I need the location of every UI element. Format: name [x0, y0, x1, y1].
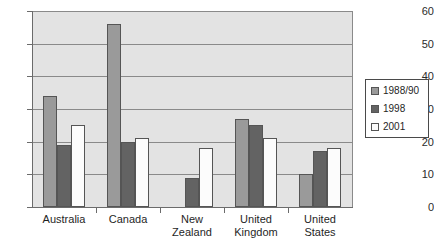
bar	[199, 148, 213, 207]
y-tick-label: 50	[408, 39, 434, 49]
bar	[107, 24, 121, 207]
bar-chart: 0102030405060 AustraliaCanadaNewZealandU…	[0, 0, 434, 252]
bar	[57, 145, 71, 207]
bar	[135, 138, 149, 207]
bar	[235, 119, 249, 207]
x-axis-label: Canada	[96, 213, 160, 226]
bar	[263, 138, 277, 207]
legend-swatch-icon	[371, 105, 379, 113]
bar	[249, 125, 263, 207]
bar	[313, 151, 327, 207]
bar	[327, 148, 341, 207]
bar	[121, 142, 135, 207]
y-axis-line	[32, 11, 33, 208]
y-tick-label: 60	[408, 6, 434, 16]
legend-label: 1998	[383, 104, 405, 114]
y-tick-label: 0	[408, 202, 434, 212]
legend: 1988/90 1998 2001	[365, 79, 429, 138]
y-tick-label: 20	[408, 137, 434, 147]
x-axis-line	[32, 207, 353, 208]
legend-swatch-icon	[371, 123, 379, 131]
plot-frame-right	[352, 11, 353, 208]
y-tick-label: 10	[408, 169, 434, 179]
bar	[43, 96, 57, 207]
x-axis-label: NewZealand	[160, 213, 224, 239]
x-axis-label: Australia	[32, 213, 96, 226]
legend-item-1[interactable]: 1998	[371, 103, 424, 114]
legend-label: 1988/90	[383, 86, 419, 96]
legend-label: 2001	[383, 122, 405, 132]
x-axis-label: UnitedStates	[288, 213, 352, 239]
x-axis-label: UnitedKingdom	[224, 213, 288, 239]
legend-swatch-icon	[371, 87, 379, 95]
bar	[185, 178, 199, 207]
legend-item-2[interactable]: 2001	[371, 121, 424, 132]
bar	[299, 174, 313, 207]
legend-item-0[interactable]: 1988/90	[371, 85, 424, 96]
bars-layer	[32, 11, 352, 207]
bar	[71, 125, 85, 207]
